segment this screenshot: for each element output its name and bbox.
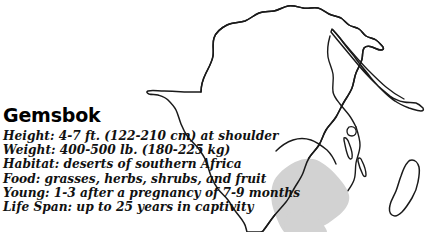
fact-value-weight: 400-500 lb. (180-225 kg) <box>60 143 231 157</box>
fact-row: Habitat: deserts of southern Africa <box>3 157 273 171</box>
fact-label-young: Young: <box>3 186 50 200</box>
fact-label-height: Height: <box>3 129 54 143</box>
fact-label-food: Food: <box>3 172 40 186</box>
fact-panel: Gemsbok Height: 4-7 ft. (122-210 cm) at … <box>3 104 273 214</box>
fact-row: Life Span: up to 25 years in captivity <box>3 200 273 214</box>
fact-label-life-span: Life Span: <box>3 200 72 214</box>
fact-label-habitat: Habitat: <box>3 157 59 171</box>
madagascar-island <box>389 160 419 216</box>
animal-fact-card: Gemsbok Height: 4-7 ft. (122-210 cm) at … <box>0 0 435 232</box>
fact-value-young: 1-3 after a pregnancy of 7-9 months <box>54 186 300 200</box>
fact-row: Weight: 400-500 lb. (180-225 kg) <box>3 143 273 157</box>
fact-row: Young: 1-3 after a pregnancy of 7-9 mont… <box>3 186 273 200</box>
lake-tanganyika <box>344 138 352 159</box>
page-title: Gemsbok <box>3 104 273 126</box>
fact-value-habitat: deserts of southern Africa <box>63 157 241 171</box>
fact-value-food: grasses, herbs, shrubs, and fruit <box>45 172 267 186</box>
fact-label-weight: Weight: <box>3 143 56 157</box>
fact-row: Food: grasses, herbs, shrubs, and fruit <box>3 172 273 186</box>
fact-row: Height: 4-7 ft. (122-210 cm) at shoulder <box>3 129 273 143</box>
lake-victoria <box>347 127 356 136</box>
lake-malawi <box>358 158 366 177</box>
fact-value-life-span: up to 25 years in captivity <box>76 200 253 214</box>
fact-value-height: 4-7 ft. (122-210 cm) at shoulder <box>59 129 279 143</box>
